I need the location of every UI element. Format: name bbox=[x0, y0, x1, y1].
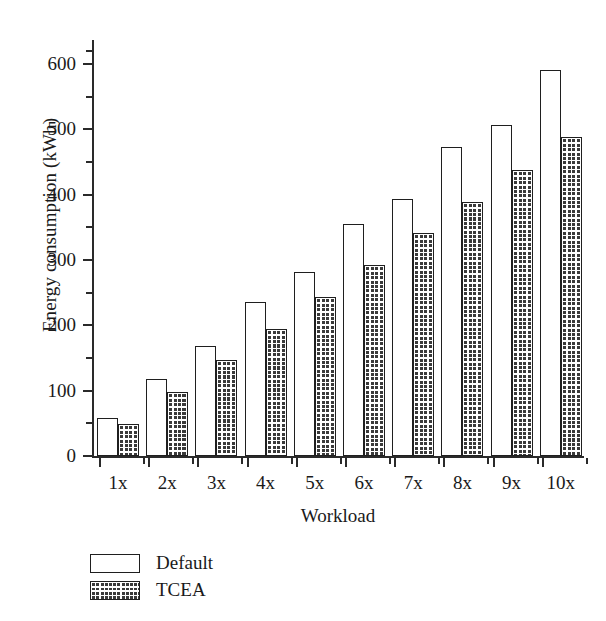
bar-tcea-5x bbox=[315, 297, 336, 456]
y-axis-line bbox=[92, 40, 94, 458]
bar-tcea-3x bbox=[216, 360, 237, 456]
bar-default-2x bbox=[146, 379, 167, 456]
bar-tcea-7x bbox=[413, 233, 434, 456]
y-tick-label: 500 bbox=[14, 119, 76, 138]
y-tick-major bbox=[83, 390, 92, 392]
y-tick-major bbox=[83, 63, 92, 65]
x-tick-major bbox=[394, 458, 396, 467]
y-tick-label: 0 bbox=[14, 446, 76, 465]
bar-default-9x bbox=[491, 125, 512, 456]
y-tick-label: 400 bbox=[14, 185, 76, 204]
bar-tcea-10x bbox=[561, 137, 582, 456]
bar-default-4x bbox=[245, 302, 266, 456]
bar-tcea-2x bbox=[167, 392, 188, 456]
y-tick-minor bbox=[86, 422, 92, 424]
x-tick-minor bbox=[438, 458, 440, 464]
x-tick-minor bbox=[192, 458, 194, 464]
y-tick-major bbox=[83, 128, 92, 130]
legend-swatch-default bbox=[90, 554, 140, 573]
x-axis-title: Workload bbox=[92, 505, 584, 527]
legend-label-default: Default bbox=[156, 552, 213, 574]
y-tick-label: 300 bbox=[14, 250, 76, 269]
x-tick-major bbox=[296, 458, 298, 467]
y-tick-minor bbox=[86, 161, 92, 163]
y-tick-major bbox=[83, 324, 92, 326]
plot-area: 1x2x3x4x5x6x7x8x9x10x bbox=[92, 40, 584, 458]
bar-default-6x bbox=[343, 224, 364, 456]
y-tick-minor bbox=[86, 50, 92, 52]
x-tick-major bbox=[345, 458, 347, 467]
x-tick-major bbox=[542, 458, 544, 467]
bar-default-7x bbox=[392, 199, 413, 456]
legend-item-default[interactable]: Default bbox=[90, 552, 213, 574]
x-tick-major bbox=[443, 458, 445, 467]
bar-default-5x bbox=[294, 272, 315, 456]
bar-tcea-8x bbox=[462, 202, 483, 456]
x-tick-major bbox=[197, 458, 199, 467]
legend-item-tcea[interactable]: TCEA bbox=[90, 579, 213, 601]
x-axis-line bbox=[92, 456, 584, 458]
y-tick-major bbox=[83, 455, 92, 457]
x-tick-minor bbox=[487, 458, 489, 464]
legend-label-tcea: TCEA bbox=[156, 579, 206, 601]
y-tick-label: 200 bbox=[14, 315, 76, 334]
y-tick-minor bbox=[86, 96, 92, 98]
x-tick-minor bbox=[537, 458, 539, 464]
bar-default-3x bbox=[195, 346, 216, 456]
chart-figure: Energy consumption (kWh) 1x2x3x4x5x6x7x8… bbox=[0, 0, 606, 621]
x-tick-major bbox=[493, 458, 495, 467]
bar-default-8x bbox=[441, 147, 462, 456]
x-tick-major bbox=[247, 458, 249, 467]
x-tick-minor bbox=[340, 458, 342, 464]
x-tick-minor bbox=[241, 458, 243, 464]
x-tick-major bbox=[99, 458, 101, 467]
y-tick-minor bbox=[86, 226, 92, 228]
y-tick-major bbox=[83, 194, 92, 196]
bar-tcea-1x bbox=[118, 424, 139, 456]
x-tick-minor bbox=[586, 458, 588, 464]
chart-legend: Default TCEA bbox=[90, 552, 213, 601]
bar-default-1x bbox=[97, 418, 118, 456]
bar-default-10x bbox=[540, 70, 561, 456]
y-tick-label: 600 bbox=[14, 54, 76, 73]
y-tick-minor bbox=[86, 292, 92, 294]
y-tick-major bbox=[83, 259, 92, 261]
x-tick-minor bbox=[143, 458, 145, 464]
bar-tcea-9x bbox=[512, 170, 533, 456]
bar-tcea-6x bbox=[364, 265, 385, 456]
bar-tcea-4x bbox=[266, 329, 287, 456]
x-tick-label: 10x bbox=[531, 472, 591, 494]
legend-swatch-tcea bbox=[90, 581, 140, 600]
x-tick-minor bbox=[291, 458, 293, 464]
y-tick-label: 100 bbox=[14, 381, 76, 400]
y-tick-minor bbox=[86, 357, 92, 359]
x-tick-minor bbox=[389, 458, 391, 464]
x-tick-major bbox=[148, 458, 150, 467]
